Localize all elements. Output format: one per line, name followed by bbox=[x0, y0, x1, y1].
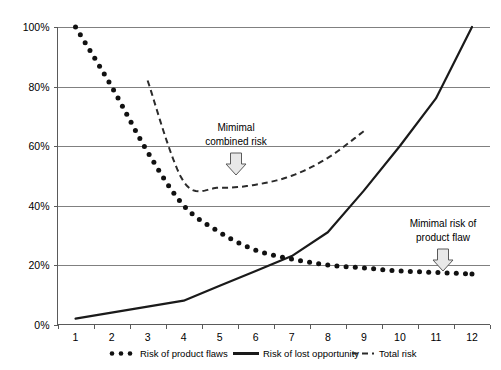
y-axis-tick-label: 0% bbox=[34, 319, 49, 331]
series-data-dot bbox=[147, 152, 152, 157]
series-data-dot bbox=[87, 48, 92, 53]
series-data-dot bbox=[116, 96, 121, 101]
y-axis-tick-label: 20% bbox=[28, 259, 49, 271]
annotation-flaw-line1: Mimimal risk of bbox=[410, 218, 477, 229]
series-data-dot bbox=[111, 88, 116, 93]
legend-dot bbox=[110, 351, 115, 356]
series-data-dot bbox=[120, 104, 125, 109]
series-data-dot bbox=[253, 248, 258, 253]
series-data-dot bbox=[325, 263, 330, 268]
series-data-dot bbox=[177, 198, 182, 203]
legend-label-lost-opportunity: Risk of lost opportunity bbox=[263, 348, 359, 359]
series-data-dot bbox=[307, 260, 312, 265]
series-data-dot bbox=[463, 271, 468, 276]
series-data-dot bbox=[228, 236, 233, 241]
y-axis-tick-label: 100% bbox=[23, 21, 50, 33]
series-data-dot bbox=[124, 112, 129, 117]
series-data-dot bbox=[245, 244, 250, 249]
series-data-dot bbox=[280, 255, 285, 260]
series-data-dot bbox=[171, 191, 176, 196]
x-axis-tick-label: 4 bbox=[181, 331, 187, 343]
series-data-dot bbox=[73, 25, 78, 30]
series-data-dot bbox=[271, 253, 276, 258]
annotation-combined-line2: combined risk bbox=[205, 136, 268, 147]
series-data-dot bbox=[142, 144, 147, 149]
x-axis-tick-label: 2 bbox=[109, 331, 115, 343]
x-axis-tick-label: 3 bbox=[145, 331, 151, 343]
series-data-dot bbox=[454, 271, 459, 276]
series-data-dot bbox=[78, 32, 83, 37]
series-data-dot bbox=[353, 265, 358, 270]
x-axis-tick-label: 5 bbox=[217, 331, 223, 343]
series-data-dot bbox=[137, 136, 142, 141]
series-data-dot bbox=[417, 269, 422, 274]
series-data-dot bbox=[389, 268, 394, 273]
series-data-dot bbox=[212, 227, 217, 232]
annotation-combined-line1: Mimimal bbox=[217, 122, 254, 133]
y-axis-tick-label: 60% bbox=[28, 140, 49, 152]
legend-marker-dotted bbox=[110, 351, 133, 356]
x-axis-tick-label: 12 bbox=[466, 331, 478, 343]
x-axis-tick-label: 7 bbox=[289, 331, 295, 343]
y-axis-tick-label: 80% bbox=[28, 81, 49, 93]
series-data-dot bbox=[289, 256, 294, 261]
legend-label-product-flaws: Risk of product flaws bbox=[140, 348, 228, 359]
series-data-dot bbox=[435, 270, 440, 275]
series-data-dot bbox=[334, 263, 339, 268]
x-axis-tick-label: 11 bbox=[430, 331, 441, 343]
series-data-dot bbox=[102, 72, 107, 77]
x-axis-tick-label: 10 bbox=[394, 331, 406, 343]
legend-label-total-risk: Total risk bbox=[379, 348, 417, 359]
series-data-dot bbox=[97, 64, 102, 69]
risk-tradeoff-chart: 0%20%40%60%80%100% 123456789101112 Mimim… bbox=[0, 0, 501, 370]
chart-canvas: 0%20%40%60%80%100% 123456789101112 Mimim… bbox=[0, 0, 501, 370]
series-data-dot bbox=[197, 217, 202, 222]
series-data-dot bbox=[371, 266, 376, 271]
series-data-dot bbox=[469, 271, 474, 276]
x-axis-tick-label: 8 bbox=[325, 331, 331, 343]
series-data-dot bbox=[344, 264, 349, 269]
x-axis-tick-label: 9 bbox=[361, 331, 367, 343]
chart-background bbox=[0, 0, 501, 370]
series-data-dot bbox=[298, 258, 303, 263]
series-data-dot bbox=[408, 269, 413, 274]
series-data-dot bbox=[362, 266, 367, 271]
series-data-dot bbox=[161, 175, 166, 180]
series-data-dot bbox=[166, 183, 171, 188]
legend-dot bbox=[128, 351, 133, 356]
y-axis-tick-label: 40% bbox=[28, 200, 49, 212]
series-data-dot bbox=[220, 232, 225, 237]
x-axis-tick-label: 1 bbox=[73, 331, 79, 343]
series-data-dot bbox=[129, 120, 134, 125]
series-data-dot bbox=[205, 222, 210, 227]
annotation-flaw-line2: product flaw bbox=[416, 232, 471, 243]
series-data-dot bbox=[316, 261, 321, 266]
series-data-dot bbox=[156, 168, 161, 173]
series-data-dot bbox=[151, 160, 156, 165]
x-axis-tick-label: 6 bbox=[253, 331, 259, 343]
series-data-dot bbox=[106, 80, 111, 85]
legend-dot bbox=[119, 351, 124, 356]
series-data-dot bbox=[83, 40, 88, 45]
series-data-dot bbox=[190, 211, 195, 216]
series-data-dot bbox=[426, 270, 431, 275]
series-data-dot bbox=[133, 128, 138, 133]
series-data-dot bbox=[262, 251, 267, 256]
series-data-dot bbox=[445, 270, 450, 275]
series-data-dot bbox=[183, 205, 188, 210]
series-data-dot bbox=[236, 240, 241, 245]
series-data-dot bbox=[92, 56, 97, 61]
series-data-dot bbox=[399, 269, 404, 274]
series-data-dot bbox=[380, 267, 385, 272]
